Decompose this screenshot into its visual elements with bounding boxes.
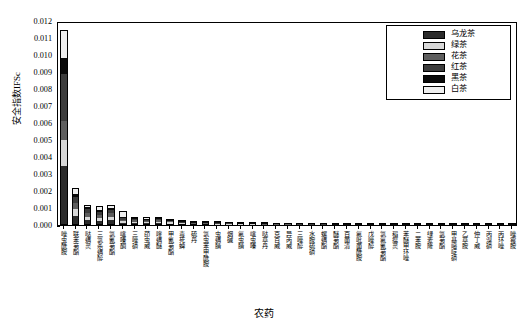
bar-segment [343,223,350,224]
x-tick-label: 唑霉胺 [507,231,515,249]
x-tick-mark [134,226,135,229]
bar-segment [143,217,150,220]
x-tick-mark [358,226,359,229]
bar-stack [107,23,114,225]
x-tick-label: 烟碱 [224,231,232,243]
bar-segment [107,210,114,213]
y-tick-label: 0.003 [0,170,57,180]
x-tick-label: 丙环唑 [495,231,503,249]
bar-segment [143,219,150,220]
bar-stack [190,23,197,225]
bar-segment [107,213,114,216]
legend-label: 乌龙茶 [451,30,475,39]
x-tick-mark [499,226,500,229]
bar-segment [249,222,256,223]
legend-item: 黑茶 [391,74,506,85]
x-axis-category-labels: 唑虫酰胺联苯菊酯哒螨灵三氯杀螨醇氯氰菊酯噻嗪酮三唑磷茚虫威喹螨醚甲氰菊酯毒死蜱硫… [57,231,517,311]
x-tick-label: 联苯菊酯 [71,231,79,255]
bar-segment [178,223,185,224]
bar-stack [355,23,362,225]
x-tick-label: 唑虫酰胺 [59,231,67,255]
bar-segment [119,211,126,217]
x-tick-mark [216,226,217,229]
bar-segment [107,220,114,225]
x-tick-label: 二苯胺 [413,231,421,249]
legend-item: 乌龙茶 [391,30,506,41]
x-tick-mark [86,226,87,229]
bar-segment [84,209,91,213]
x-axis-label: 农药 [0,305,527,320]
bar-segment [414,223,421,224]
x-tick-mark [311,226,312,229]
x-tick-label: 稻瘟灵 [389,231,397,249]
x-tick-label: 三唑磷 [130,231,138,249]
bar-stack [237,23,244,225]
y-tick-label: 0.001 [0,204,57,214]
legend-swatch [423,75,445,83]
bar-segment [96,210,103,212]
x-tick-label: 戊唑醇 [366,231,374,249]
x-tick-mark [381,226,382,229]
x-tick-mark [157,226,158,229]
bar-segment [178,222,185,223]
bar-segment [60,140,67,166]
legend-item: 花茶 [391,52,506,63]
y-tick-label: 0.008 [0,85,57,95]
bar-segment [190,223,197,224]
bar-segment [155,217,162,218]
bar-segment [508,223,515,224]
bar-segment [155,222,162,224]
bar-segment [155,223,162,225]
x-tick-label: 氯菊酯 [436,231,444,249]
bar-segment [155,220,162,221]
bar-segment [178,224,185,225]
bar-segment [72,203,79,208]
bar-segment [166,222,173,223]
bar-segment [96,212,103,215]
bar-segment [390,223,397,224]
bar-segment [107,208,114,210]
x-tick-label: 氟虫腈 [236,231,244,249]
y-tick-label: 0.009 [0,68,57,78]
bar-stack [249,23,256,225]
legend-item: 绿茶 [391,41,506,52]
x-tick-label: 氯氟氰菊酯 [377,231,385,261]
x-tick-label: 异丙威 [283,231,291,249]
bar-segment [426,223,433,224]
bar-segment [119,220,126,222]
x-tick-label: 螺螨酯 [318,231,326,249]
bar-segment [143,221,150,222]
bar-stack [72,23,79,225]
bar-stack [379,23,386,225]
x-tick-label: 硫丹 [189,231,197,243]
x-tick-mark [63,226,64,229]
x-tick-label: 丙溴磷 [484,231,492,249]
bar-segment [72,188,79,194]
bar-segment [355,223,362,224]
bar-segment [166,219,173,220]
x-tick-mark [145,226,146,229]
bar-stack [131,23,138,225]
y-tick-label: 0.007 [0,102,57,112]
bar-segment [96,218,103,221]
bar-segment [119,218,126,220]
bar-segment [107,217,114,221]
bar-segment [84,217,91,221]
bar-segment [155,219,162,220]
legend-label: 红茶 [451,63,467,72]
bar-segment [214,221,221,222]
bar-segment [449,223,456,224]
bar-segment [72,216,79,225]
x-tick-label: 喹螨醚 [153,231,161,249]
bar-segment [178,222,185,223]
bar-segment [119,221,126,223]
bar-segment [60,121,67,140]
x-tick-mark [110,226,111,229]
x-tick-label: 克百威 [271,231,279,249]
bar-segment [379,223,386,224]
bar-segment [308,223,315,224]
x-tick-mark [181,226,182,229]
x-tick-mark [464,226,465,229]
bar-segment [202,223,209,224]
bar-segment [60,58,67,73]
